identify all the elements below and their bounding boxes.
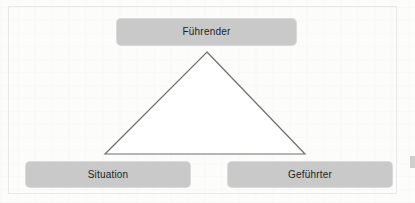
node-label-leader: Führender (183, 27, 231, 37)
node-box-leader[interactable]: Führender (117, 19, 296, 45)
node-box-follower[interactable]: Geführter (228, 162, 392, 187)
page-edge-artifact (410, 156, 415, 168)
node-label-follower: Geführter (288, 170, 332, 180)
node-box-situation[interactable]: Situation (26, 162, 190, 187)
triangle-shape (105, 52, 305, 154)
node-label-situation: Situation (88, 170, 129, 180)
diagram-page: Führender Situation Geführter (0, 0, 415, 203)
